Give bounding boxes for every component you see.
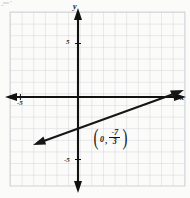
open-paren: ( xyxy=(94,125,99,149)
y-tick-label-5: 5 xyxy=(66,38,69,46)
scan-artifact xyxy=(3,2,9,4)
x-axis-label: x xyxy=(180,93,184,102)
annotation-x-value: 0 xyxy=(100,136,104,144)
x-tick-label-neg5: -5 xyxy=(17,99,22,107)
close-paren: ) xyxy=(123,125,128,149)
annotation-fraction: -7 3 xyxy=(109,128,120,146)
y-tick-label-neg5: -5 xyxy=(64,156,69,164)
annotation-comma: , xyxy=(105,136,107,145)
y-axis-label: y xyxy=(73,2,77,11)
point-annotation: ( 0 , -7 3 ) xyxy=(92,125,129,149)
fraction-numerator: -7 xyxy=(112,128,118,136)
scan-artifact xyxy=(1,5,4,6)
graph-canvas: y x 5 -5 -5 ( 0 , -7 3 ) xyxy=(0,0,190,198)
coordinate-plane-svg xyxy=(0,0,190,198)
scan-artifact xyxy=(10,1,12,2)
fraction-denominator: 3 xyxy=(113,138,117,146)
